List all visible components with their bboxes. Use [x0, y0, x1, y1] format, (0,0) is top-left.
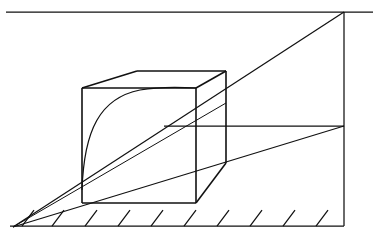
perspective-figure [0, 0, 373, 237]
perspective-drawing-canvas [0, 0, 373, 237]
